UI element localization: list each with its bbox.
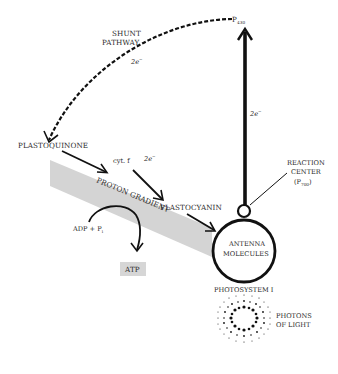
photosystem-label: PHOTOSYSTEM I (214, 286, 274, 294)
p430-label: P430 (232, 15, 245, 25)
reaction-center-line3: (P700) (294, 178, 312, 187)
photons-burst-icon (217, 294, 270, 342)
reaction-center-line2: CENTER (291, 168, 322, 176)
reaction-center-line1: REACTION (287, 159, 325, 167)
photosystem-diagram: PROTON GRADIENT SHUNT PATHWAY 2e− P430 2… (0, 0, 338, 374)
shunt-pathway-label-line1: SHUNT (112, 29, 141, 38)
shunt-electrons-label: 2e− (130, 57, 143, 66)
atp-label: ATP (124, 265, 140, 274)
cyt-electrons-label: 2e− (143, 154, 156, 163)
adp-label: ADP + Pi (72, 225, 104, 234)
plastoquinone-label: PLASTOQUINONE (18, 141, 88, 150)
reaction-center-circle (238, 205, 250, 217)
antenna-label-line2: MOLECULES (223, 250, 269, 258)
plastocyanin-label: PLASTOCYANIN (160, 203, 222, 212)
atp-box: ATP (120, 262, 146, 276)
photons-label-line1: PHOTONS (276, 312, 312, 320)
cyt-f-label: cyt. f (113, 157, 130, 165)
reaction-center-pointer (250, 173, 287, 205)
photons-label-line2: OF LIGHT (276, 321, 311, 329)
shunt-pathway-label-line2: PATHWAY (102, 38, 140, 47)
antenna-label-line1: ANTENNA (228, 240, 265, 248)
vertical-electrons-label: 2e− (249, 109, 262, 118)
